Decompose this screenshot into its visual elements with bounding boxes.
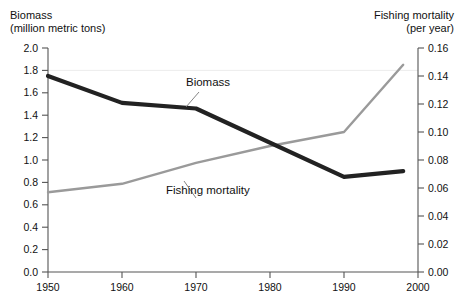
right-tick-label-4: 0.08 xyxy=(428,155,460,166)
right-tick-label-5: 0.10 xyxy=(428,127,460,138)
chart-container: Biomass (million metric tons) Fishing mo… xyxy=(0,0,462,302)
left-tick-label-3: 0.6 xyxy=(2,199,38,210)
right-axis-title-line2: (per year) xyxy=(374,22,454,35)
bottom-tick-label-1980: 1980 xyxy=(240,282,300,293)
left-tick-label-0: 0.0 xyxy=(2,267,38,278)
left-tick-marks xyxy=(42,48,48,272)
right-tick-label-0: 0.00 xyxy=(428,267,460,278)
right-tick-label-6: 0.12 xyxy=(428,99,460,110)
bottom-tick-label-1970: 1970 xyxy=(166,282,226,293)
right-tick-label-2: 0.04 xyxy=(428,211,460,222)
right-tick-label-7: 0.14 xyxy=(428,71,460,82)
left-tick-label-8: 1.6 xyxy=(2,87,38,98)
series-annotation-fishing-mortality: Fishing mortality xyxy=(166,184,250,197)
bottom-tick-label-1960: 1960 xyxy=(92,282,152,293)
bottom-tick-label-1950: 1950 xyxy=(18,282,78,293)
left-tick-label-9: 1.8 xyxy=(2,65,38,76)
left-tick-label-1: 0.2 xyxy=(2,244,38,255)
bottom-tick-marks xyxy=(48,272,418,278)
left-tick-label-4: 0.8 xyxy=(2,177,38,188)
right-tick-label-1: 0.02 xyxy=(428,239,460,250)
left-tick-label-2: 0.4 xyxy=(2,222,38,233)
left-axis-title-line2: (million metric tons) xyxy=(10,22,105,35)
bottom-tick-label-1990: 1990 xyxy=(314,282,374,293)
right-tick-label-3: 0.06 xyxy=(428,183,460,194)
left-axis-title: Biomass (million metric tons) xyxy=(10,9,105,35)
left-tick-label-6: 1.2 xyxy=(2,132,38,143)
left-axis-title-line1: Biomass xyxy=(10,9,52,21)
bottom-tick-label-2000: 2000 xyxy=(388,282,448,293)
right-axis-title: Fishing mortality (per year) xyxy=(374,9,454,35)
left-tick-label-5: 1.0 xyxy=(2,155,38,166)
left-tick-label-10: 2.0 xyxy=(2,43,38,54)
right-axis-title-line1: Fishing mortality xyxy=(374,9,454,21)
right-tick-marks xyxy=(418,48,424,272)
leader-line-biomass xyxy=(186,92,199,107)
series-annotation-biomass: Biomass xyxy=(186,76,230,89)
left-tick-label-7: 1.4 xyxy=(2,110,38,121)
right-tick-label-8: 0.16 xyxy=(428,43,460,54)
plot-area xyxy=(0,0,462,302)
